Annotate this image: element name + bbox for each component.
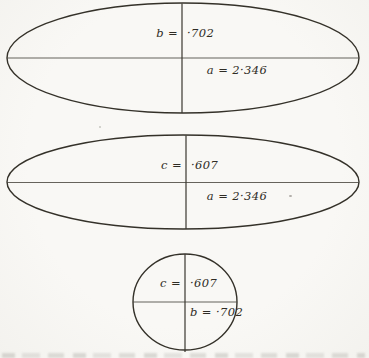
- circle-upper-label-right: ·607: [190, 276, 217, 290]
- middle-ellipse-minor-label-left: c =: [161, 158, 182, 172]
- upper-ellipse-major-label: a = 2·346: [207, 63, 267, 77]
- figure-upper-ellipse: b = ·702 a = 2·346: [7, 3, 359, 113]
- upper-ellipse-minor-label-left: b =: [156, 26, 178, 40]
- ink-speck: [99, 126, 101, 128]
- engraved-plate-page: b = ·702 a = 2·346 c = ·607 a = 2·346 c …: [0, 0, 369, 358]
- circle-upper-label-left: c =: [160, 276, 181, 290]
- middle-ellipse-major-label: a = 2·346: [207, 189, 267, 203]
- cutoff-caption-smudge: [2, 353, 365, 358]
- ink-speck: [289, 195, 292, 197]
- geometric-figures-plate: b = ·702 a = 2·346 c = ·607 a = 2·346 c …: [0, 0, 369, 358]
- middle-ellipse-minor-label-right: ·607: [191, 158, 218, 172]
- figure-middle-ellipse: c = ·607 a = 2·346: [7, 135, 359, 229]
- figure-lower-circle: c = ·607 b = ·702: [133, 254, 243, 352]
- circle-lower-label: b = ·702: [190, 305, 243, 319]
- upper-ellipse-minor-label-right: ·702: [187, 26, 214, 40]
